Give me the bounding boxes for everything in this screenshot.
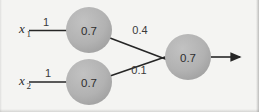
edge-weight-hidden2: 0.1 bbox=[131, 64, 146, 76]
scan-edge-right bbox=[256, 0, 259, 112]
hidden-node-1-value: 0.7 bbox=[81, 25, 97, 37]
edge-weight-input1: 1 bbox=[43, 16, 49, 28]
input-label-1: x bbox=[18, 21, 25, 36]
scan-edge-bottom bbox=[0, 109, 259, 112]
edge-weight-hidden1: 0.4 bbox=[132, 24, 147, 36]
edge-weight-input2: 1 bbox=[45, 67, 51, 79]
input-label-1-subscript: 1 bbox=[27, 29, 32, 39]
neural-network-diagram: 0.7 0.7 0.7 x 1 x 2 1 1 0.4 0.1 bbox=[0, 0, 259, 112]
diagram-canvas: 0.7 0.7 0.7 x 1 x 2 1 1 0.4 0.1 bbox=[0, 0, 259, 112]
input-label-2: x bbox=[18, 73, 25, 88]
input-label-2-subscript: 2 bbox=[27, 81, 32, 91]
edge-hidden1-to-output bbox=[110, 38, 168, 60]
scan-edge-left bbox=[0, 0, 2, 112]
output-node-value: 0.7 bbox=[180, 52, 196, 64]
hidden-node-2-value: 0.7 bbox=[81, 77, 97, 89]
